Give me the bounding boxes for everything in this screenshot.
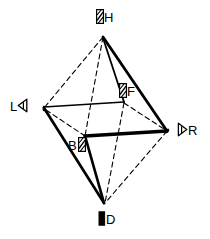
triangle-right-icon	[177, 122, 188, 139]
edge-R-D	[106, 131, 167, 202]
striped-bar-icon	[78, 137, 86, 154]
edge-B-D-solid	[85, 136, 104, 203]
edge-F-R	[124, 103, 167, 131]
striped-bar-glyph	[96, 9, 104, 24]
striped-bar-icon	[119, 83, 127, 100]
octahedron-diagram	[0, 0, 210, 239]
triangle-right-glyph	[177, 122, 188, 137]
edge-B-R	[85, 131, 167, 136]
edge-H-R	[103, 37, 167, 131]
striped-bar-glyph	[119, 83, 127, 98]
edge-H-B	[85, 37, 103, 136]
solid-bar-icon	[98, 211, 106, 228]
vertex-label-R: R	[177, 122, 197, 139]
vertex-label-F: F	[119, 83, 135, 100]
edge-L-F	[44, 102, 124, 107]
triangle-left-icon	[17, 98, 28, 115]
triangle-left-glyph	[17, 98, 28, 113]
octahedron-figure: H F L R B	[0, 0, 210, 239]
vertex-label-B-text: B	[68, 138, 77, 153]
edge-L-B	[46, 110, 85, 136]
edge-F-D	[105, 103, 124, 203]
striped-bar-glyph	[78, 137, 86, 152]
edge-H-L	[44, 37, 103, 108]
vertex-label-F-text: F	[127, 84, 135, 99]
vertex-label-B: B	[68, 137, 86, 154]
solid-bar-glyph	[98, 211, 106, 226]
vertex-label-H-text: H	[104, 10, 113, 25]
vertex-label-D-text: D	[106, 212, 115, 227]
dashed-edge-group	[44, 37, 167, 203]
edge-R-corner	[166, 130, 168, 132]
vertex-label-H: H	[96, 9, 113, 26]
vertex-label-D: D	[98, 211, 115, 228]
vertex-label-R-text: R	[188, 123, 197, 138]
edge-L-D	[44, 108, 104, 203]
vertex-label-L-text: L	[10, 99, 17, 114]
vertex-label-L: L	[10, 98, 28, 115]
striped-bar-icon	[96, 9, 104, 26]
